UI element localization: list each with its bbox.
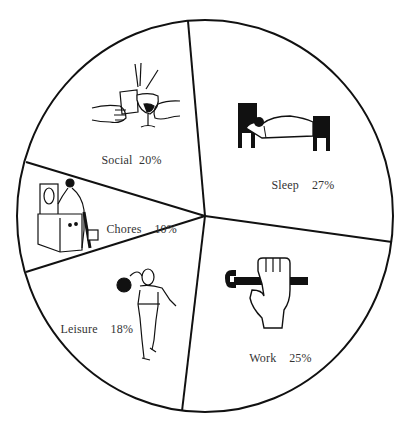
sleep-pct: 27%	[312, 178, 335, 192]
pie-chart	[0, 0, 407, 428]
chores-pct: 10%	[154, 222, 177, 236]
label-leisure: Leisure 18%	[54, 307, 133, 337]
label-chores: Chores 10%	[100, 207, 177, 237]
social-name: Social	[101, 153, 132, 167]
label-sleep: Sleep 27%	[265, 163, 335, 193]
label-social: Social 20%	[95, 138, 162, 168]
sleep-name: Sleep	[271, 178, 299, 192]
label-work: Work 25%	[243, 336, 312, 366]
leisure-pct: 18%	[111, 322, 134, 336]
work-name: Work	[249, 351, 276, 365]
work-pct: 25%	[289, 351, 312, 365]
social-pct: 20%	[139, 153, 162, 167]
leisure-name: Leisure	[60, 322, 97, 336]
chores-name: Chores	[106, 222, 141, 236]
